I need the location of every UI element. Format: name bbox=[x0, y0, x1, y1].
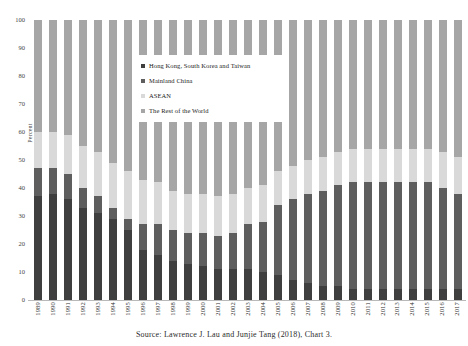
stacked-bar[interactable] bbox=[109, 20, 117, 300]
bar-segment[interactable] bbox=[34, 168, 42, 196]
bar-segment[interactable] bbox=[154, 224, 162, 255]
bar-segment[interactable] bbox=[169, 230, 177, 261]
legend-item[interactable]: Mainland China bbox=[141, 73, 285, 88]
bar-segment[interactable] bbox=[304, 194, 312, 284]
bar-segment[interactable] bbox=[94, 196, 102, 213]
stacked-bar[interactable] bbox=[94, 20, 102, 300]
bar-segment[interactable] bbox=[439, 289, 447, 300]
legend-item[interactable]: The Rest of the World bbox=[141, 103, 285, 118]
stacked-bar[interactable] bbox=[454, 20, 462, 300]
bar-segment[interactable] bbox=[64, 174, 72, 199]
bar-segment[interactable] bbox=[334, 286, 342, 300]
bar-segment[interactable] bbox=[169, 261, 177, 300]
bar-segment[interactable] bbox=[319, 157, 327, 191]
bar-segment[interactable] bbox=[349, 289, 357, 300]
bar-segment[interactable] bbox=[259, 222, 267, 272]
bar-column[interactable] bbox=[315, 20, 330, 300]
stacked-bar[interactable] bbox=[379, 20, 387, 300]
bar-segment[interactable] bbox=[94, 213, 102, 300]
bar-segment[interactable] bbox=[409, 149, 417, 183]
bar-segment[interactable] bbox=[124, 230, 132, 300]
bar-segment[interactable] bbox=[154, 255, 162, 300]
bar-segment[interactable] bbox=[259, 272, 267, 300]
bar-segment[interactable] bbox=[439, 188, 447, 289]
bar-segment[interactable] bbox=[244, 188, 252, 224]
bar-segment[interactable] bbox=[109, 219, 117, 300]
stacked-bar[interactable] bbox=[394, 20, 402, 300]
bar-segment[interactable] bbox=[334, 152, 342, 186]
bar-segment[interactable] bbox=[409, 182, 417, 288]
bar-segment[interactable] bbox=[424, 20, 432, 149]
bar-column[interactable] bbox=[31, 20, 46, 300]
bar-segment[interactable] bbox=[64, 20, 72, 135]
bar-segment[interactable] bbox=[229, 233, 237, 269]
bar-segment[interactable] bbox=[244, 269, 252, 300]
bar-segment[interactable] bbox=[439, 20, 447, 152]
bar-segment[interactable] bbox=[319, 286, 327, 300]
bar-segment[interactable] bbox=[79, 188, 87, 208]
stacked-bar[interactable] bbox=[439, 20, 447, 300]
bar-segment[interactable] bbox=[49, 194, 57, 300]
bar-segment[interactable] bbox=[229, 269, 237, 300]
bar-segment[interactable] bbox=[454, 157, 462, 193]
stacked-bar[interactable] bbox=[34, 20, 42, 300]
bar-segment[interactable] bbox=[109, 163, 117, 208]
bar-column[interactable] bbox=[390, 20, 405, 300]
bar-segment[interactable] bbox=[379, 20, 387, 149]
bar-segment[interactable] bbox=[424, 149, 432, 183]
bar-segment[interactable] bbox=[289, 199, 297, 280]
bar-segment[interactable] bbox=[124, 20, 132, 171]
stacked-bar[interactable] bbox=[64, 20, 72, 300]
bar-segment[interactable] bbox=[34, 196, 42, 300]
bar-segment[interactable] bbox=[439, 152, 447, 188]
stacked-bar[interactable] bbox=[304, 20, 312, 300]
bar-segment[interactable] bbox=[94, 152, 102, 197]
bar-segment[interactable] bbox=[199, 194, 207, 233]
bar-segment[interactable] bbox=[334, 185, 342, 286]
bar-segment[interactable] bbox=[319, 191, 327, 286]
bar-column[interactable] bbox=[76, 20, 91, 300]
bar-column[interactable] bbox=[121, 20, 136, 300]
bar-segment[interactable] bbox=[409, 289, 417, 300]
bar-segment[interactable] bbox=[349, 149, 357, 183]
bar-segment[interactable] bbox=[364, 182, 372, 288]
bar-column[interactable] bbox=[420, 20, 435, 300]
bar-segment[interactable] bbox=[394, 182, 402, 288]
bar-segment[interactable] bbox=[214, 196, 222, 235]
bar-segment[interactable] bbox=[379, 182, 387, 288]
stacked-bar[interactable] bbox=[49, 20, 57, 300]
bar-segment[interactable] bbox=[34, 20, 42, 132]
bar-segment[interactable] bbox=[79, 146, 87, 188]
bar-segment[interactable] bbox=[109, 20, 117, 163]
bar-column[interactable] bbox=[375, 20, 390, 300]
bar-column[interactable] bbox=[61, 20, 76, 300]
bar-segment[interactable] bbox=[79, 208, 87, 300]
stacked-bar[interactable] bbox=[79, 20, 87, 300]
bar-segment[interactable] bbox=[154, 182, 162, 224]
bar-segment[interactable] bbox=[199, 233, 207, 267]
bar-segment[interactable] bbox=[214, 269, 222, 300]
bar-segment[interactable] bbox=[34, 132, 42, 168]
bar-segment[interactable] bbox=[394, 149, 402, 183]
bar-segment[interactable] bbox=[364, 149, 372, 183]
bar-segment[interactable] bbox=[49, 20, 57, 132]
bar-column[interactable] bbox=[345, 20, 360, 300]
stacked-bar[interactable] bbox=[319, 20, 327, 300]
bar-segment[interactable] bbox=[244, 224, 252, 269]
bar-segment[interactable] bbox=[214, 236, 222, 270]
bar-segment[interactable] bbox=[364, 289, 372, 300]
bar-column[interactable] bbox=[360, 20, 375, 300]
stacked-bar[interactable] bbox=[409, 20, 417, 300]
bar-segment[interactable] bbox=[94, 20, 102, 152]
bar-segment[interactable] bbox=[64, 199, 72, 300]
bar-segment[interactable] bbox=[124, 171, 132, 219]
bar-segment[interactable] bbox=[454, 20, 462, 157]
bar-column[interactable] bbox=[300, 20, 315, 300]
bar-segment[interactable] bbox=[139, 180, 147, 225]
bar-segment[interactable] bbox=[49, 168, 57, 193]
stacked-bar[interactable] bbox=[349, 20, 357, 300]
bar-segment[interactable] bbox=[334, 20, 342, 152]
bar-segment[interactable] bbox=[454, 289, 462, 300]
bar-segment[interactable] bbox=[184, 264, 192, 300]
bar-segment[interactable] bbox=[304, 160, 312, 194]
